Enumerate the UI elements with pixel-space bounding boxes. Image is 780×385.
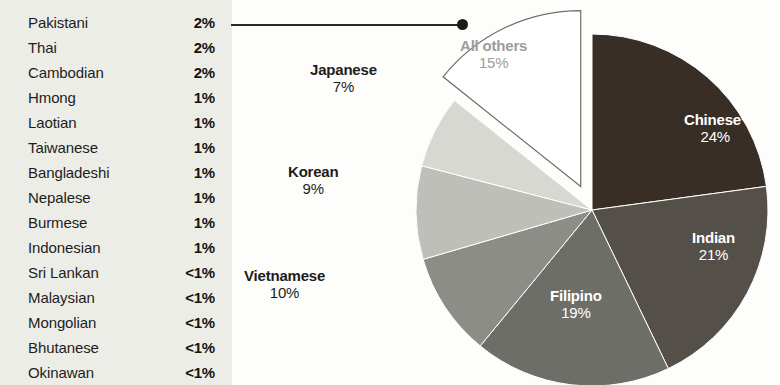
- list-item: Taiwanese1%: [0, 135, 232, 160]
- small-groups-list: Pakistani2%Thai2%Cambodian2%Hmong1%Laoti…: [0, 10, 232, 385]
- list-item-label: Nepalese: [28, 185, 91, 210]
- pie-slice-label: Filipino19%: [550, 288, 602, 322]
- list-item: Burmese1%: [0, 210, 232, 235]
- list-item-label: Pakistani: [28, 10, 88, 35]
- list-item-value: 2%: [194, 35, 215, 60]
- pie-slice-name: Vietnamese: [244, 268, 325, 285]
- list-item-label: Okinawan: [28, 360, 94, 385]
- list-item: Mongolian<1%: [0, 310, 232, 335]
- list-item-label: Sri Lankan: [28, 260, 99, 285]
- list-item-value: <1%: [185, 285, 215, 310]
- list-item-value: 1%: [194, 85, 215, 110]
- list-item-label: Cambodian: [28, 60, 104, 85]
- pie-slice-label: Indian21%: [692, 230, 735, 264]
- pie-slice-value: 24%: [684, 129, 747, 146]
- list-item-label: Laotian: [28, 110, 77, 135]
- list-item-label: Mongolian: [28, 310, 96, 335]
- pie-slice-name: All others: [460, 38, 527, 55]
- pie-slice-value: 10%: [244, 285, 325, 302]
- list-item-value: 1%: [194, 160, 215, 185]
- list-item: Pakistani2%: [0, 10, 232, 35]
- list-item-label: Hmong: [28, 85, 76, 110]
- pie-slice-label: Vietnamese10%: [244, 268, 325, 302]
- list-item-label: Bangladeshi: [28, 160, 109, 185]
- pie-chart: Chinese*24%Indian21%Filipino19%Vietnames…: [232, 0, 780, 385]
- list-item-label: Burmese: [28, 210, 87, 235]
- pie-slice-name: Japanese: [310, 62, 377, 79]
- list-item-value: <1%: [185, 335, 215, 360]
- list-item-value: 1%: [194, 185, 215, 210]
- pie-slice-value: 19%: [550, 305, 602, 322]
- list-item: Sri Lankan<1%: [0, 260, 232, 285]
- pie-slice-name: Indian: [692, 230, 735, 247]
- pie-slice-value: 15%: [460, 55, 527, 72]
- list-item: Thai2%: [0, 35, 232, 60]
- pie-slice-label: Japanese7%: [310, 62, 377, 96]
- infographic-root: Pakistani2%Thai2%Cambodian2%Hmong1%Laoti…: [0, 0, 780, 385]
- list-item: Cambodian2%: [0, 60, 232, 85]
- pie-slice-value: 9%: [288, 181, 338, 198]
- pie-slice-name: Filipino: [550, 288, 602, 305]
- list-item-value: 1%: [194, 135, 215, 160]
- list-item-label: Thai: [28, 35, 57, 60]
- pie-slice-value: 21%: [692, 247, 735, 264]
- pie-slice-name: Chinese*: [684, 112, 747, 129]
- pie-slice-name: Korean: [288, 164, 338, 181]
- list-item-value: <1%: [185, 310, 215, 335]
- list-item-value: 2%: [194, 10, 215, 35]
- pie-slice-label: All others15%: [460, 38, 527, 72]
- pie-slice-label: Korean9%: [288, 164, 338, 198]
- list-item-value: 1%: [194, 235, 215, 260]
- list-item-value: 1%: [194, 110, 215, 135]
- list-item-label: Taiwanese: [28, 135, 98, 160]
- list-item: Laotian1%: [0, 110, 232, 135]
- list-item: Malaysian<1%: [0, 285, 232, 310]
- list-item-label: Indonesian: [28, 235, 100, 260]
- list-item-value: <1%: [185, 360, 215, 385]
- list-item-label: Bhutanese: [28, 335, 99, 360]
- list-item: Okinawan<1%: [0, 360, 232, 385]
- pie-slice-label: Chinese*24%: [684, 112, 747, 146]
- list-item: Nepalese1%: [0, 185, 232, 210]
- list-item-label: Malaysian: [28, 285, 95, 310]
- list-item-value: <1%: [185, 260, 215, 285]
- list-item: Bhutanese<1%: [0, 335, 232, 360]
- list-item: Indonesian1%: [0, 235, 232, 260]
- small-groups-list-panel: Pakistani2%Thai2%Cambodian2%Hmong1%Laoti…: [0, 0, 232, 385]
- pie-slice-value: 7%: [310, 79, 377, 96]
- list-item: Hmong1%: [0, 85, 232, 110]
- list-item-value: 1%: [194, 210, 215, 235]
- list-item: Bangladeshi1%: [0, 160, 232, 185]
- list-item-value: 2%: [194, 60, 215, 85]
